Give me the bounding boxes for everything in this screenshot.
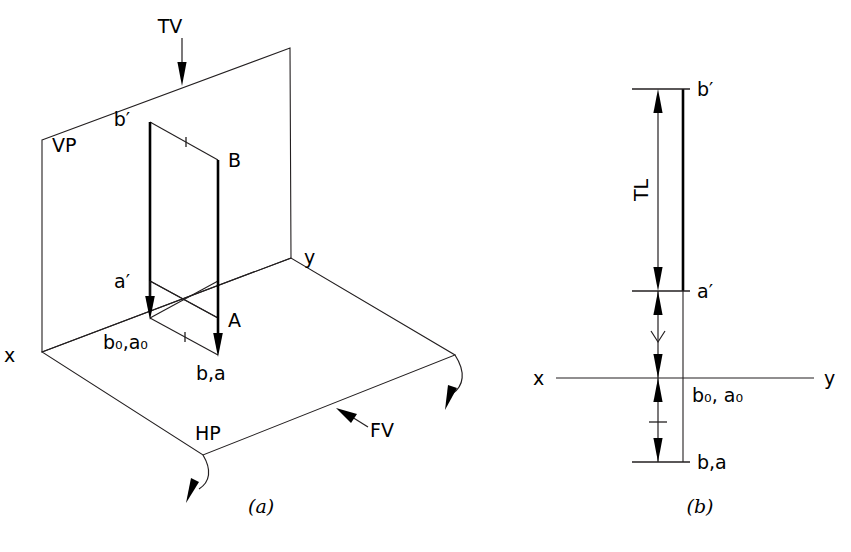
label-b-prime-b: b′	[697, 78, 713, 100]
label-x-axis-a: x	[4, 344, 15, 366]
panel-b: TL b′ a′ x y b₀, a₀ b,a	[533, 78, 835, 517]
hp-rotation-arrow-right	[445, 355, 462, 410]
label-b-a-a: b,a	[196, 362, 226, 384]
label-B: B	[228, 149, 241, 171]
rotation-arrowhead-right	[445, 385, 457, 410]
rotation-curve-left	[199, 455, 209, 489]
label-top-view: TV	[157, 15, 183, 37]
tl-dimension: TL	[630, 89, 663, 291]
label-b-a-b: b,a	[697, 451, 727, 473]
engineering-drawing-figure: TV VP b′ B a′ A x y b₀,a₀ b,a HP FV (a)	[0, 0, 851, 552]
label-a-prime-a: a′	[114, 270, 130, 292]
label-x-axis-b: x	[533, 367, 544, 389]
caption-panel-b: (b)	[687, 495, 714, 517]
hp-rotation-arrow-left	[186, 455, 209, 503]
label-b0-a0-a: b₀,a₀	[103, 331, 148, 353]
construction-lines	[150, 122, 291, 355]
label-A: A	[228, 309, 241, 331]
panel-a: TV VP b′ B a′ A x y b₀,a₀ b,a HP FV (a)	[4, 15, 462, 517]
true-line-AB	[213, 160, 223, 357]
line-bprime-to-B	[150, 122, 218, 160]
vp-plane-outline	[42, 48, 291, 352]
tv-arrowhead	[177, 62, 186, 86]
front-view-line-vp	[145, 122, 155, 320]
tl-arrowhead-bottom	[653, 267, 662, 291]
fv-arrow-shaft	[352, 417, 368, 427]
aprime-to-xy-dimension	[651, 291, 665, 378]
aprime-xy-arrowhead-top	[653, 291, 662, 315]
figure-canvas: TV VP b′ B a′ A x y b₀,a₀ b,a HP FV (a)	[0, 0, 851, 552]
label-a-prime-b: a′	[697, 280, 713, 302]
line-b0a0-to-ba	[150, 318, 218, 355]
top-view-arrow	[177, 38, 186, 86]
label-b0-a0-b: b₀, a₀	[692, 384, 743, 406]
vp-plane	[42, 48, 291, 352]
label-front-view: FV	[370, 419, 394, 441]
fv-arrowhead	[336, 408, 357, 423]
label-tl: TL	[630, 178, 652, 202]
label-vp: VP	[52, 134, 76, 156]
tl-arrowhead-top	[653, 89, 662, 113]
xy-ba-arrowhead-top	[653, 378, 662, 402]
label-hp: HP	[195, 422, 221, 444]
caption-panel-a: (a)	[248, 495, 274, 517]
front-view-arrow	[336, 408, 368, 427]
label-y-axis-b: y	[824, 367, 835, 389]
xy-to-ba-dimension	[649, 378, 667, 462]
aprime-xy-arrowhead-bottom	[653, 354, 662, 378]
label-b-prime-a: b′	[114, 108, 130, 130]
label-y-axis-a: y	[304, 246, 315, 268]
xy-ba-arrowhead-bottom	[653, 438, 662, 462]
rotation-arrowhead-left	[186, 478, 199, 503]
